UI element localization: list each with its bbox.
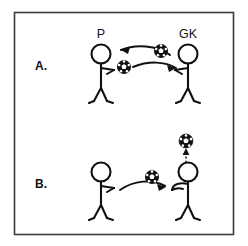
- panel-a-letter: A.: [35, 59, 47, 73]
- panel-a-player-label: P: [97, 27, 105, 41]
- ball-b-overhead: [179, 134, 193, 148]
- stick-figure-head: [179, 45, 198, 64]
- stick-figure-head: [179, 163, 198, 182]
- ball-patch-nw: [180, 138, 183, 141]
- ball-patch-se: [188, 144, 191, 147]
- ball-patch-n: [151, 170, 154, 173]
- ball-patch-sw: [182, 144, 185, 147]
- soccer-drill-diagram: A. P GK: [0, 0, 248, 246]
- diagram-canvas: A. P GK: [0, 0, 248, 246]
- ball-patch-sw: [157, 54, 160, 57]
- panel-b-letter: B.: [35, 177, 47, 191]
- ball-a-incoming: [154, 44, 167, 57]
- ball-patch-nw: [146, 174, 149, 177]
- ball-patch-nw: [155, 48, 158, 51]
- ball-patch-nw: [118, 64, 121, 67]
- ball-a-outgoing: [117, 60, 130, 73]
- ball-patch-n: [123, 60, 126, 63]
- stick-figure-head: [92, 163, 111, 182]
- panel-a-goalkeeper-label: GK: [179, 27, 198, 41]
- ball-b-pass: [145, 170, 158, 183]
- ball-patch-sw: [148, 180, 151, 183]
- ball-patch-se: [163, 54, 166, 57]
- ball-patch-sw: [120, 70, 123, 73]
- ball-patch-n: [185, 134, 188, 137]
- ball-patch-ne: [165, 48, 168, 51]
- ball-patch-se: [126, 70, 129, 73]
- diagram-frame: [15, 13, 234, 235]
- ball-patch-ne: [190, 138, 193, 141]
- ball-patch-ne: [156, 174, 159, 177]
- ball-patch-n: [160, 44, 163, 47]
- ball-patch-se: [154, 180, 157, 183]
- ball-patch-ne: [128, 64, 131, 67]
- stick-figure-head: [92, 45, 111, 64]
